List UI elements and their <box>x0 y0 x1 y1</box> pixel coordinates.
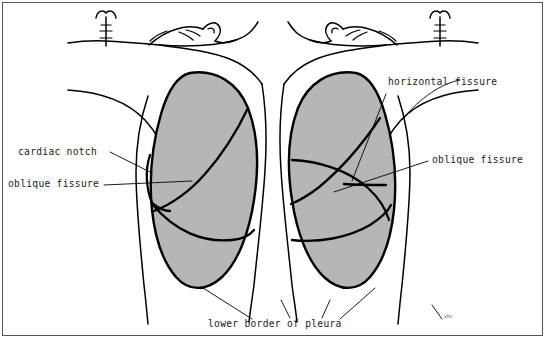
right-ear-outline <box>326 23 343 41</box>
right-sternocleidomastoid <box>353 32 367 40</box>
lower-border-leader-midright <box>322 300 330 318</box>
lower-border-leader-midleft <box>281 300 290 318</box>
right-half-group <box>280 11 478 324</box>
left-neck-crease <box>186 30 200 36</box>
artist-signature: vhc <box>444 313 453 319</box>
anatomy-figure: cardiac notch oblique fissure horizontal… <box>0 0 546 339</box>
right-neck-back-line <box>310 40 331 43</box>
left-medial-chest-wall <box>136 96 148 324</box>
signature-stroke <box>432 305 442 319</box>
label-horizontal-fissure: horizontal fissure <box>388 76 497 87</box>
left-ear-inner <box>208 28 214 33</box>
left-neck-shoulder-profile <box>68 11 262 84</box>
right-chin-detail <box>379 31 396 41</box>
left-sternocleidomastoid <box>179 32 193 40</box>
left-chin-detail <box>150 31 167 41</box>
right-neck-shoulder-profile <box>284 11 478 84</box>
label-oblique-fissure-right: oblique fissure <box>432 154 523 165</box>
left-neck-back-line <box>215 40 236 43</box>
lower-border-leader-left <box>203 288 252 319</box>
right-medial-chest-wall <box>398 96 410 324</box>
right-ear-inner <box>332 28 338 33</box>
label-oblique-fissure-left: oblique fissure <box>8 178 99 189</box>
left-half-group <box>68 11 266 324</box>
label-lower-border-of-pleura: lower border of pleura <box>208 318 342 329</box>
right-lung-outline <box>289 72 395 288</box>
left-lung-outline <box>151 72 257 288</box>
cardiac-notch-leader <box>110 152 150 172</box>
label-cardiac-notch: cardiac notch <box>18 146 97 157</box>
right-neck-crease <box>346 30 360 36</box>
left-ear-outline <box>203 23 220 41</box>
lungs-pleura-diagram: cardiac notch oblique fissure horizontal… <box>0 0 546 339</box>
lower-border-leader-right <box>340 288 375 319</box>
